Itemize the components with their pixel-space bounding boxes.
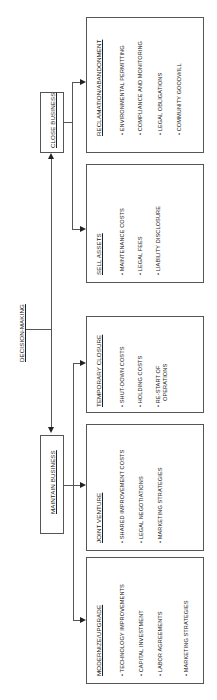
temporary-closure-item: • RE-START OF [155,366,161,408]
modernize-upgrade-item: • LABOR AGREEMENTS [157,611,163,676]
maintain-business-label: MAINTAIN BUSINESS [49,450,56,514]
close-business-label: CLOSE BUSINESS [49,93,56,148]
joint-venture-item: • SHARED IMPROVEMENT COSTS [119,450,125,543]
connector-to-joint-venture [64,485,80,486]
connector-close-top [64,122,72,123]
modernize-upgrade-title: MODERNIZE/UPGRADE [95,605,102,676]
joint-venture-box: JOINT VENTURE • SHARED IMPROVEMENT COSTS… [86,424,204,551]
connector-maintain-branch [73,363,74,621]
modernize-upgrade-item: • CAPITAL INVESTMENT [138,610,144,676]
decision-making-label: DECISION-MAKING [18,304,25,362]
joint-venture-item: • MARKETING STRATEGIES [157,467,163,543]
connector-to-modernize [73,620,80,621]
reclamation-item: • COMMUNITY GOODWILL [176,63,182,135]
reclamation-item: • COMPLIANCE AND MONITORING [137,41,143,135]
maintain-business-box: MAINTAIN BUSINESS [40,435,64,534]
sell-assets-item: • LEGAL FEES [137,236,143,275]
connector-to-reclamation [72,82,80,83]
sell-assets-box: SELL ASSETS • MAINTENANCE COSTS • LEGAL … [86,164,204,283]
reclamation-item: • ENVIRONMENTAL PERMITTING [119,45,125,135]
reclamation-box: RECLAMATION/ABANDONMENT • ENVIRONMENTAL … [86,17,204,153]
temporary-closure-item: OPERATIONS [162,364,168,401]
modernize-upgrade-item: • TECHNOLOGY IMPROVEMENTS [119,584,125,676]
modernize-upgrade-item: • MARKETING STRATEGIES [183,600,189,676]
arrow-to-close-business [48,153,54,159]
connector-to-sell-assets [72,229,80,230]
temporary-closure-box: TEMPORARY CLOSURE • SHUT-DOWN COSTS • HO… [86,316,204,413]
close-business-box: CLOSE BUSINESS [40,92,64,153]
connector-to-temporary-closure [73,363,80,364]
reclamation-item: • LEGAL OBLIGATIONS [157,73,163,135]
joint-venture-item: • LEGAL NEGOTIATIONS [138,476,144,543]
connector-root [26,329,52,330]
sell-assets-title: SELL ASSETS [95,233,102,275]
connector-main [51,158,52,429]
temporary-closure-item: • SHUT-DOWN COSTS [119,346,125,407]
sell-assets-item: • MAINTENANCE COSTS [119,208,125,275]
connector-close-branch [72,82,73,230]
sell-assets-item: • LIABILITY DISCLOSURE [155,206,161,275]
temporary-closure-item: • HOLDING COSTS [137,356,143,407]
modernize-upgrade-box: MODERNIZE/UPGRADE • TECHNOLOGY IMPROVEME… [86,557,204,684]
reclamation-title: RECLAMATION/ABANDONMENT [95,40,102,136]
joint-venture-title: JOINT VENTURE [95,493,102,543]
arrow-to-maintain-business [48,427,54,433]
temporary-closure-title: TEMPORARY CLOSURE [95,335,102,407]
